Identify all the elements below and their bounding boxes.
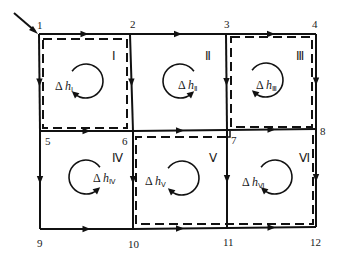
node-label-10: 10	[128, 238, 140, 250]
flow-arrow-icon	[267, 224, 275, 230]
dashed-circuit-loops-V-VI	[136, 131, 313, 224]
delta-h-label: Δ hⅠ	[55, 79, 73, 94]
flow-arrow-icon	[176, 225, 184, 231]
pipe-7-11	[224, 130, 230, 228]
loop-numeral: Ⅱ	[205, 49, 211, 63]
delta-h-label: Δ hⅢ	[256, 78, 277, 93]
loop-numeral: Ⅳ	[112, 151, 123, 165]
node-label-2: 2	[130, 18, 136, 30]
pipe-9-10	[40, 226, 133, 232]
flow-arrow-icon	[313, 78, 319, 86]
node-label-3: 3	[224, 18, 230, 30]
rotation-arrow-icon	[93, 187, 101, 194]
flow-arrow-icon	[176, 127, 184, 133]
node-label-7: 7	[231, 134, 237, 146]
loop-IV: ⅣΔ hⅣ	[69, 151, 123, 195]
node-label-4: 4	[312, 18, 318, 30]
pipe-6-7	[133, 127, 227, 133]
loop-numeral: Ⅵ	[299, 151, 310, 165]
pipe-5-9	[37, 131, 43, 229]
flow-arrow-icon	[36, 78, 42, 86]
node-label-12: 12	[310, 236, 321, 248]
pipe-3-7	[223, 34, 229, 130]
flow-arrow-icon	[83, 226, 91, 232]
pipe-10-11	[133, 225, 227, 231]
pipe-2-3	[130, 31, 226, 37]
pipe-11-12	[227, 224, 316, 230]
node-label-8: 8	[320, 125, 326, 137]
loop-V: ⅤΔ hⅤ	[145, 151, 218, 196]
loop-I: ⅠΔ hⅠ	[55, 49, 116, 99]
loop-numeral: Ⅰ	[112, 49, 116, 63]
node-label-9: 9	[37, 237, 43, 249]
flow-arrow-icon	[128, 78, 134, 86]
node-label-6: 6	[122, 135, 128, 147]
loops: ⅠΔ hⅠⅡΔ hⅡⅢΔ hⅢⅣΔ hⅣⅤΔ hⅤⅥΔ hⅥ	[55, 49, 310, 196]
delta-h-label: Δ hⅥ	[242, 175, 264, 190]
flow-arrow-icon	[223, 78, 229, 86]
node-label-5: 5	[45, 135, 51, 147]
flow-arrow-icon	[81, 31, 89, 37]
node-label-11: 11	[223, 236, 234, 248]
delta-h-label: Δ hⅡ	[178, 78, 197, 93]
pipe-grid	[36, 31, 319, 232]
node-labels: 123456789101112	[37, 18, 326, 250]
pipe-1-2	[39, 31, 130, 37]
pipe-4-8	[313, 34, 319, 129]
pipe-2-6	[128, 34, 134, 131]
delta-h-label: Δ hⅤ	[145, 174, 166, 189]
node-label-1: 1	[37, 19, 43, 31]
inflow-arrow	[14, 13, 38, 34]
flow-arrow-icon	[174, 31, 182, 37]
loop-numeral: Ⅴ	[209, 151, 218, 165]
delta-h-label: Δ hⅣ	[93, 171, 116, 186]
flow-arrow-icon	[37, 176, 43, 184]
loop-III: ⅢΔ hⅢ	[252, 49, 304, 98]
rotation-arrow-icon	[168, 188, 176, 195]
rotation-arrow-icon	[187, 91, 195, 98]
pipe-1-5	[36, 34, 42, 131]
loop-VI: ⅥΔ hⅥ	[242, 151, 310, 195]
pipe-network-diagram: 123456789101112 ⅠΔ hⅠⅡΔ hⅡⅢΔ hⅢⅣΔ hⅣⅤΔ h…	[0, 0, 337, 256]
loop-numeral: Ⅲ	[296, 49, 304, 63]
flow-arrow-icon	[224, 175, 230, 183]
loop-II: ⅡΔ hⅡ	[163, 49, 211, 99]
